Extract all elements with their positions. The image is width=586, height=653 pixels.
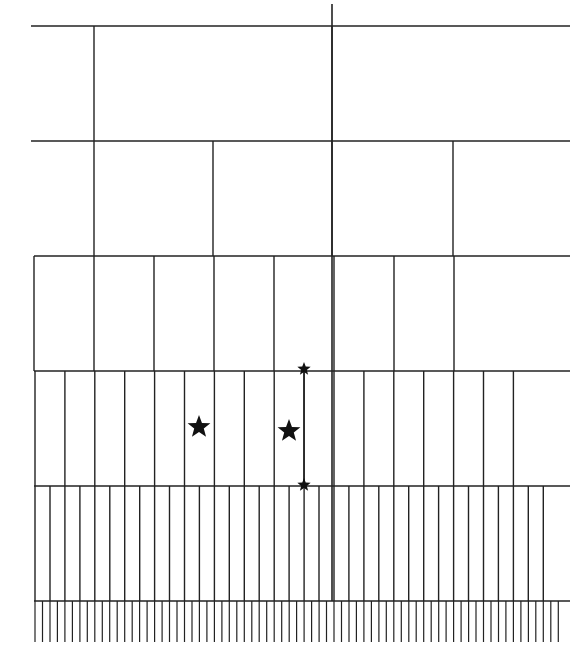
hierarchical-grid-diagram	[0, 0, 586, 653]
large-star-right-icon	[278, 419, 301, 441]
star-markers	[188, 362, 311, 491]
large-star-left-icon	[188, 415, 211, 437]
grid-lines	[31, 4, 570, 642]
